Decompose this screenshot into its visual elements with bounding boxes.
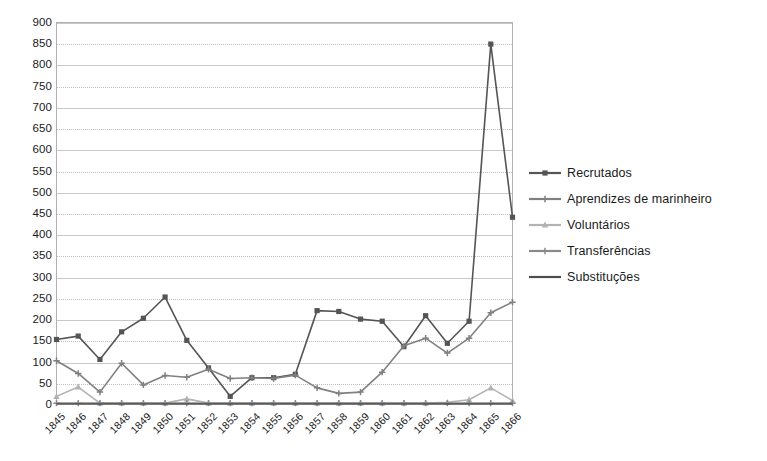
y-tick-label: 750 [4, 80, 52, 91]
legend-label: Aprendizes de marinheiro [567, 192, 712, 206]
data-point-marker [97, 357, 102, 362]
legend-label: Transferências [567, 244, 651, 258]
data-point-marker [336, 309, 341, 314]
legend-item[interactable]: Transferências [528, 238, 763, 264]
y-tick-label: 450 [4, 208, 52, 219]
y-tick-label: 650 [4, 123, 52, 134]
data-point-marker [314, 308, 319, 313]
x-axis: 1845184618471848184918501851185218531854… [56, 404, 513, 461]
data-point-marker [380, 319, 385, 324]
data-point-marker [227, 375, 233, 381]
legend: RecrutadosAprendizes de marinheiroVolunt… [528, 160, 763, 290]
legend-marker-icon [528, 270, 562, 284]
data-point-marker [510, 215, 515, 220]
data-point-marker [423, 313, 428, 318]
data-point-marker [76, 333, 81, 338]
y-tick-label: 0 [4, 399, 52, 410]
data-point-marker [358, 317, 363, 322]
y-tick-label: 250 [4, 292, 52, 303]
data-point-marker [75, 384, 81, 390]
data-point-marker [184, 338, 189, 343]
series-line [57, 302, 513, 393]
legend-marker-icon [528, 218, 562, 232]
legend-item[interactable]: Recrutados [528, 160, 763, 186]
data-point-marker [54, 337, 59, 342]
y-tick-label: 500 [4, 186, 52, 197]
data-point-marker [488, 41, 493, 46]
y-tick-label: 100 [4, 356, 52, 367]
y-tick-label: 300 [4, 271, 52, 282]
series-line [57, 44, 513, 396]
line-chart: 0501001502002503003504004505005506006507… [0, 0, 767, 461]
y-tick-label: 800 [4, 59, 52, 70]
data-point-marker [184, 374, 190, 380]
y-tick-label: 50 [4, 377, 52, 388]
data-point-marker [445, 341, 450, 346]
data-point-marker [542, 196, 548, 202]
legend-marker-icon [528, 244, 562, 258]
series-line [57, 387, 513, 403]
y-axis: 0501001502002503003504004505005506006507… [0, 0, 52, 461]
y-tick-label: 850 [4, 38, 52, 49]
data-point-marker [162, 372, 168, 378]
data-point-marker [119, 329, 124, 334]
y-tick-label: 600 [4, 144, 52, 155]
series-layer [56, 22, 513, 404]
data-point-marker [509, 299, 515, 305]
data-point-marker [466, 319, 471, 324]
data-point-marker [488, 384, 494, 390]
legend-label: Recrutados [567, 166, 632, 180]
legend-item[interactable]: Aprendizes de marinheiro [528, 186, 763, 212]
y-tick-label: 900 [4, 17, 52, 28]
y-tick-label: 700 [4, 101, 52, 112]
legend-item[interactable]: Voluntários [528, 212, 763, 238]
data-point-marker [141, 316, 146, 321]
y-tick-label: 550 [4, 165, 52, 176]
y-tick-label: 350 [4, 250, 52, 261]
legend-marker-icon [528, 192, 562, 206]
y-tick-label: 200 [4, 314, 52, 325]
data-point-marker [542, 170, 547, 175]
y-tick-label: 150 [4, 335, 52, 346]
data-point-marker [228, 394, 233, 399]
series-aprendizes-de-marinheiro [53, 299, 515, 397]
data-point-marker [162, 294, 167, 299]
y-tick-label: 400 [4, 229, 52, 240]
data-point-marker [542, 248, 548, 254]
data-point-marker [336, 390, 342, 396]
legend-label: Substituções [567, 270, 640, 284]
series-recrutados [54, 41, 515, 398]
legend-item[interactable]: Substituções [528, 264, 763, 290]
legend-marker-icon [528, 166, 562, 180]
legend-label: Voluntários [567, 218, 630, 232]
